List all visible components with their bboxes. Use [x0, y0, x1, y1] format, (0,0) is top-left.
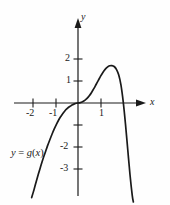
curve-label-equals: = — [16, 147, 27, 158]
y-tick-label-1: 1 — [66, 75, 71, 85]
function-graph-figure: -2 -1 1 2 1 -2 -3 x y y = g(x) — [0, 0, 170, 205]
curve-label-paren-close: ) — [40, 147, 44, 158]
y-axis-label: y — [81, 12, 85, 22]
graph-canvas — [0, 0, 170, 205]
x-tick-label-minus2: -2 — [26, 108, 34, 118]
y-tick-label-minus3: -3 — [60, 163, 68, 173]
y-tick-label-minus2: -2 — [60, 141, 68, 151]
x-axis-label: x — [150, 97, 154, 107]
curve-equation-label: y = g(x) — [11, 148, 44, 159]
x-axis-arrowhead — [136, 100, 146, 107]
function-curve — [32, 66, 134, 202]
y-tick-label-2: 2 — [65, 53, 70, 63]
x-tick-label-minus1: -1 — [49, 108, 57, 118]
x-tick-label-1: 1 — [99, 108, 104, 118]
